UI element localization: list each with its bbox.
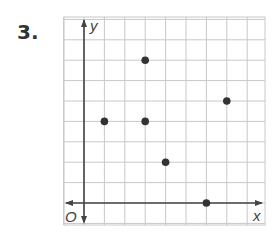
data-point bbox=[141, 56, 149, 64]
x-axis-arrow-right-icon bbox=[255, 200, 263, 206]
y-axis-arrow-up-icon bbox=[81, 19, 87, 27]
data-point bbox=[101, 118, 109, 126]
x-axis-label: x bbox=[252, 207, 261, 224]
y-axis-arrow-down-icon bbox=[81, 216, 87, 224]
origin-label: O bbox=[65, 208, 77, 225]
data-point bbox=[223, 97, 231, 105]
x-axis-arrow-left-icon bbox=[65, 200, 73, 206]
scatter-plot: xyO bbox=[0, 0, 279, 237]
data-point bbox=[162, 158, 170, 166]
data-point bbox=[141, 118, 149, 126]
data-point bbox=[203, 199, 211, 207]
